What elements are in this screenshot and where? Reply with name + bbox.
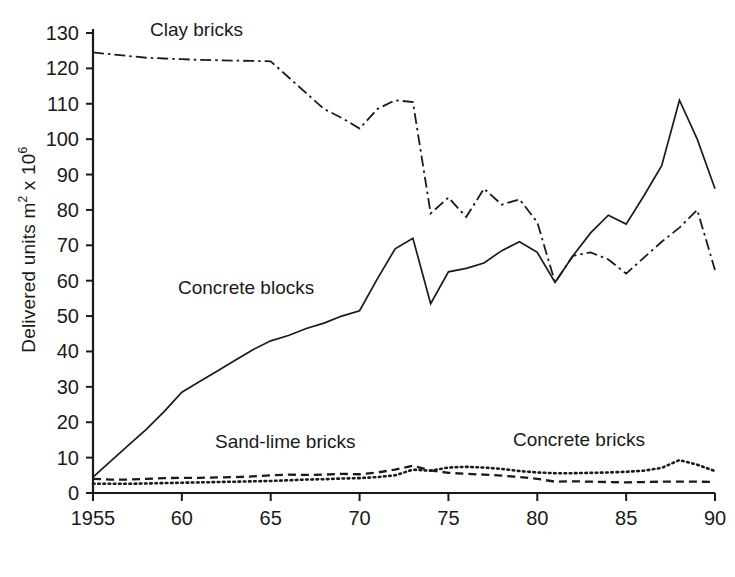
- series-line-concrete-bricks: [93, 460, 715, 484]
- plot-area: [0, 0, 735, 577]
- series-line-concrete-blocks: [93, 100, 715, 477]
- chart-figure: Delivered units m2 x 106 010203040506070…: [0, 0, 735, 577]
- series-line-sand-lime-bricks: [93, 466, 715, 483]
- axes: [86, 29, 715, 501]
- data-series: [93, 52, 715, 483]
- series-line-clay-bricks: [93, 52, 715, 282]
